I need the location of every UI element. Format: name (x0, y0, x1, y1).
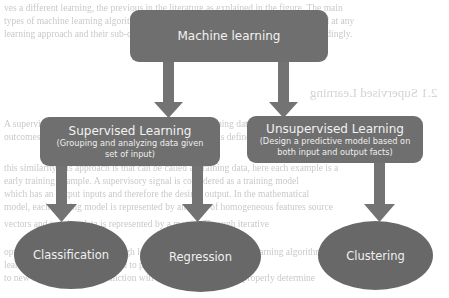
arrow-shaft (192, 166, 203, 206)
node-regression: Regression (140, 221, 261, 292)
node-description-line: set of input) (105, 149, 155, 160)
node-label: Machine learning (177, 29, 280, 43)
arrow-down-icon (46, 204, 77, 222)
node-classification: Classification (14, 221, 128, 289)
node-label: Clustering (346, 249, 405, 263)
node-title: Supervised Learning (69, 124, 192, 138)
arrow-shaft (56, 166, 67, 206)
node-supervised-learning: Supervised Learning (Grouping and analyz… (40, 117, 220, 166)
node-unsupervised-learning: Unsupervised Learning (Design a predicti… (247, 116, 423, 163)
arrow-shaft (374, 163, 385, 206)
node-description-line: (Grouping and analyzing data given (57, 138, 204, 149)
node-description-line: both input and output facts) (277, 147, 393, 158)
node-label: Classification (33, 248, 109, 262)
node-machine-learning: Machine learning (130, 10, 328, 62)
arrow-shaft (163, 62, 174, 104)
arrow-down-icon (182, 204, 213, 222)
arrow-shaft (278, 62, 289, 104)
arrow-down-icon (154, 102, 183, 118)
node-label: Regression (169, 250, 232, 264)
node-clustering: Clustering (318, 221, 433, 290)
node-description-line: (Design a predictive model based on (260, 136, 411, 147)
node-title: Unsupervised Learning (266, 122, 404, 136)
arrow-down-icon (364, 204, 395, 222)
